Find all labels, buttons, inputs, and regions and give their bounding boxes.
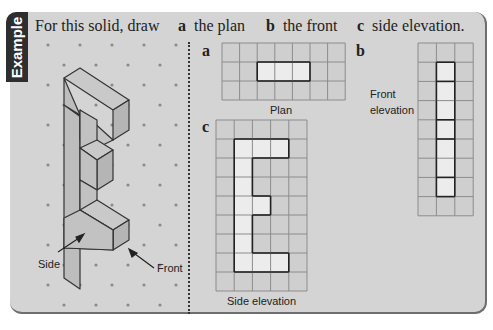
front-elevation-grid	[0, 0, 493, 330]
